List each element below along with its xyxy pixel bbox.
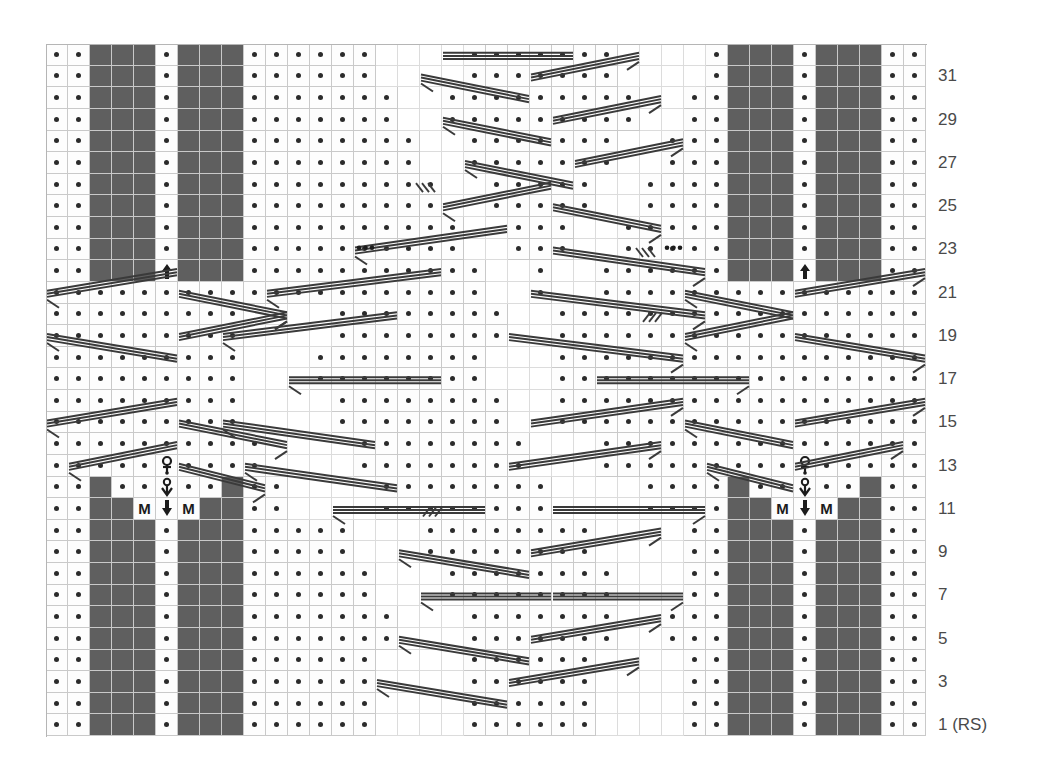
chart-cell xyxy=(178,714,200,736)
chart-cell xyxy=(244,671,266,693)
purl-dot-icon xyxy=(384,463,389,468)
chart-cell xyxy=(464,195,486,217)
chart-cell xyxy=(552,109,574,131)
row-label: 25 xyxy=(938,196,957,216)
chart-cell xyxy=(618,455,640,477)
chart-cell xyxy=(420,433,442,455)
chart-cell xyxy=(816,347,838,369)
chart-cell xyxy=(750,66,772,88)
purl-dot-icon xyxy=(318,376,323,381)
chart-cell xyxy=(112,563,134,585)
chart-cell xyxy=(420,455,442,477)
chart-cell xyxy=(90,109,112,131)
purl-dot-icon xyxy=(714,268,719,273)
chart-cell xyxy=(904,585,926,607)
chart-cell xyxy=(486,87,508,109)
chart-cell xyxy=(68,174,90,196)
stitch-chart-grid[interactable]: MMMM xyxy=(46,44,926,736)
chart-cell xyxy=(640,239,662,261)
chart-cell xyxy=(442,606,464,628)
chart-cell xyxy=(816,44,838,66)
chart-cell xyxy=(90,239,112,261)
chart-cell xyxy=(684,650,706,672)
chart-cell xyxy=(508,412,530,434)
purl-dot-icon xyxy=(780,398,785,403)
purl-dot-icon xyxy=(692,528,697,533)
chart-cell xyxy=(46,325,68,347)
chart-cell xyxy=(442,477,464,499)
chart-cell xyxy=(420,239,442,261)
chart-cell xyxy=(332,174,354,196)
purl-dot-icon xyxy=(164,138,169,143)
chart-cell xyxy=(420,87,442,109)
chart-cell xyxy=(376,390,398,412)
chart-cell xyxy=(134,541,156,563)
chart-cell xyxy=(552,714,574,736)
purl-dot-icon xyxy=(252,614,257,619)
purl-dot-icon xyxy=(626,246,631,251)
chart-cell xyxy=(134,412,156,434)
purl-dot-icon xyxy=(516,203,521,208)
chart-cell xyxy=(288,585,310,607)
chart-cell xyxy=(530,260,552,282)
chart-cell xyxy=(552,606,574,628)
chart-cell xyxy=(354,412,376,434)
chart-cell xyxy=(706,477,728,499)
purl-dot-icon xyxy=(362,679,367,684)
purl-dot-icon xyxy=(604,290,609,295)
chart-cell xyxy=(354,477,376,499)
chart-cell xyxy=(772,239,794,261)
purl-dot-icon xyxy=(736,290,741,295)
chart-cell xyxy=(706,325,728,347)
chart-cell xyxy=(354,671,376,693)
chart-cell xyxy=(904,66,926,88)
purl-dot-icon xyxy=(54,657,59,662)
chart-cell xyxy=(508,368,530,390)
chart-cell xyxy=(288,239,310,261)
chart-cell xyxy=(684,477,706,499)
purl-dot-icon xyxy=(252,657,257,662)
purl-dot-icon xyxy=(648,441,653,446)
chart-cell xyxy=(134,174,156,196)
purl-dot-icon xyxy=(714,398,719,403)
chart-cell xyxy=(684,217,706,239)
purl-dot-icon xyxy=(142,419,147,424)
purl-dot-icon xyxy=(692,268,697,273)
chart-cell xyxy=(112,87,134,109)
chart-cell xyxy=(574,109,596,131)
chart-cell xyxy=(134,109,156,131)
chart-cell xyxy=(178,44,200,66)
purl-dot-icon xyxy=(912,290,917,295)
chart-cell xyxy=(200,412,222,434)
chart-cell xyxy=(68,304,90,326)
chart-cell xyxy=(266,628,288,650)
purl-dot-icon xyxy=(802,246,807,251)
purl-dot-icon xyxy=(362,182,367,187)
down-arrow-icon xyxy=(794,498,815,519)
chart-cell xyxy=(816,563,838,585)
chart-cell xyxy=(134,152,156,174)
purl-dot-icon xyxy=(582,657,587,662)
purl-dot-icon xyxy=(890,203,895,208)
row-label: 13 xyxy=(938,456,957,476)
chart-cell xyxy=(46,66,68,88)
purl-dot-icon xyxy=(890,441,895,446)
purl-dot-icon xyxy=(868,376,873,381)
chart-cell xyxy=(112,520,134,542)
purl-dot-icon xyxy=(384,614,389,619)
chart-cell xyxy=(200,66,222,88)
chart-cell xyxy=(640,282,662,304)
chart-cell xyxy=(178,390,200,412)
chart-cell xyxy=(882,152,904,174)
purl-dot-icon xyxy=(714,506,719,511)
purl-dot-icon xyxy=(780,419,785,424)
purl-dot-icon xyxy=(296,182,301,187)
purl-dot-icon xyxy=(384,419,389,424)
chart-cell xyxy=(376,606,398,628)
chart-cell xyxy=(904,693,926,715)
purl-dot-icon xyxy=(318,636,323,641)
chart-cell xyxy=(882,520,904,542)
purl-dot-icon xyxy=(274,571,279,576)
purl-dot-icon xyxy=(296,117,301,122)
purl-dot-icon xyxy=(450,355,455,360)
